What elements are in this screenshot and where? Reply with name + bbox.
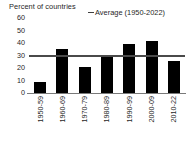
legend-entry-label-average: Average (1950-2022) [95,8,165,17]
x-axis-tick: 1990-99 [123,96,135,144]
plot-area [29,18,185,93]
chart-container: Percent of countries Average (1950-2022)… [0,0,188,147]
x-axis: 1950-591960-691970-791980-891990-992000-… [29,96,185,146]
x-axis-tick: 1970-79 [79,96,91,144]
bar [101,56,113,94]
x-axis-tick-label: 2010-22 [170,96,177,122]
bar [34,82,46,93]
chart-legend: Average (1950-2022) [88,8,165,17]
x-axis-tick: 1960-69 [56,96,68,144]
y-axis: 0102030405060 [0,0,25,147]
legend-line-marker-icon [88,12,94,14]
y-axis-tick-label: 60 [17,14,25,21]
x-axis-tick: 2000-09 [146,96,158,144]
y-axis-tick-label: 0 [21,89,25,96]
y-axis-tick-label: 50 [17,27,25,34]
y-axis-tick-label: 10 [17,77,25,84]
x-axis-tick: 1950-59 [34,96,46,144]
x-axis-tick-label: 1950-59 [37,96,44,122]
x-axis-tick-label: 1980-89 [103,96,110,122]
x-axis-tick-label: 2000-09 [148,96,155,122]
y-axis-tick-label: 20 [17,64,25,71]
average-line [29,55,185,56]
x-axis-tick-label: 1960-69 [59,96,66,122]
y-axis-tick-label: 30 [17,52,25,59]
bar [123,44,135,93]
x-axis-baseline [27,93,186,94]
x-axis-tick: 2010-22 [168,96,180,144]
bar [146,41,158,93]
x-axis-tick: 1980-89 [101,96,113,144]
x-axis-tick-label: 1970-79 [81,96,88,122]
bar [79,67,91,93]
x-axis-tick-label: 1990-99 [126,96,133,122]
bar [168,61,180,93]
y-axis-tick-label: 40 [17,39,25,46]
